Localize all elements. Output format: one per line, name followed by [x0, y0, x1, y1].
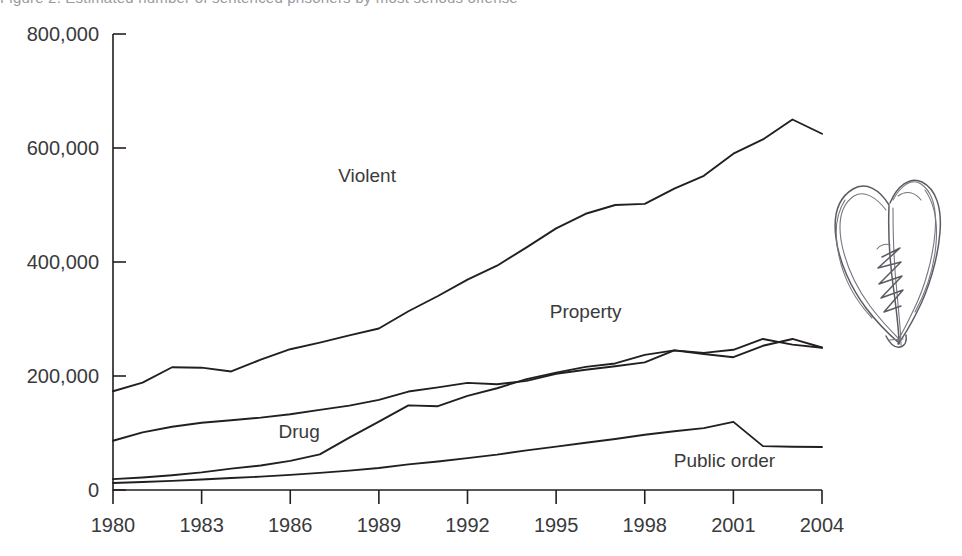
heart-sketch-annotation — [0, 0, 962, 556]
heart-sketch-icon — [835, 180, 940, 347]
chart-canvas: Figure 2. Estimated number of sentenced … — [0, 0, 962, 556]
